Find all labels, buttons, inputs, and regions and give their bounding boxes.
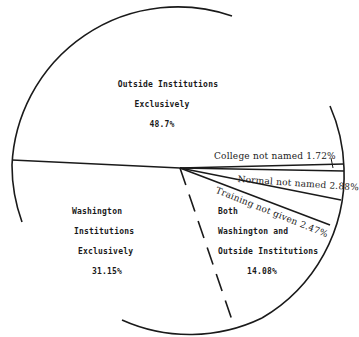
slice-line-left bbox=[12, 160, 180, 168]
label-both-pct: 14.08% bbox=[247, 267, 277, 276]
circle-arc-bottom bbox=[122, 318, 262, 334]
label-washington-pct: 31.15% bbox=[92, 267, 122, 276]
label-both-line2: Washington and bbox=[218, 227, 288, 236]
label-outside-pct: 48.7% bbox=[149, 120, 174, 129]
label-washington-line2: Institutions bbox=[74, 227, 134, 236]
label-washington-line1: Washington bbox=[72, 207, 122, 216]
slice-line-college-bottom bbox=[180, 168, 344, 171]
label-college: College not named 1.72% bbox=[214, 151, 336, 161]
slice-line-college-top bbox=[180, 164, 344, 168]
circle-arc-left bbox=[12, 165, 22, 222]
label-both-line3: Outside Institutions bbox=[218, 247, 318, 256]
label-outside-line2: Exclusively bbox=[134, 100, 189, 109]
label-washington-line3: Exclusively bbox=[78, 247, 133, 256]
label-outside-line1: Outside Institutions bbox=[118, 80, 218, 89]
label-both-line1: Both bbox=[218, 207, 238, 216]
